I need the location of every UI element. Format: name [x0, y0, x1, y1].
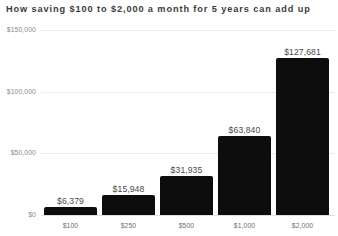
- bar-group-100[interactable]: $6,379: [44, 207, 97, 215]
- bar-value-1000: $63,840: [229, 125, 261, 135]
- axis-baseline: [41, 215, 335, 216]
- bar-group-250[interactable]: $15,948: [102, 195, 155, 215]
- gridline-150000: [41, 30, 335, 31]
- ytick-label-150000: $150,000: [0, 26, 36, 34]
- bar-250[interactable]: [102, 195, 155, 215]
- bar-group-2000[interactable]: $127,681: [276, 58, 329, 215]
- bar-500[interactable]: [160, 176, 213, 215]
- bar-group-500[interactable]: $31,935: [160, 176, 213, 215]
- bar-value-100: $6,379: [57, 196, 84, 206]
- bar-100[interactable]: [44, 207, 97, 215]
- bar-group-1000[interactable]: $63,840: [218, 136, 271, 215]
- xtick-label-250: $250: [102, 222, 155, 230]
- xtick-label-1000: $1,000: [218, 222, 271, 230]
- xtick-label-2000: $2,000: [276, 222, 329, 230]
- bar-chart: How saving $100 to $2,000 a month for 5 …: [0, 0, 338, 236]
- ytick-label-50000: $50,000: [0, 149, 36, 157]
- bar-1000[interactable]: [218, 136, 271, 215]
- xtick-label-500: $500: [160, 222, 213, 230]
- bar-value-250: $15,948: [113, 184, 145, 194]
- bar-value-2000: $127,681: [284, 47, 321, 57]
- bar-value-500: $31,935: [171, 165, 203, 175]
- bar-2000[interactable]: [276, 58, 329, 215]
- ytick-label-0: $0: [0, 211, 36, 219]
- xtick-label-100: $100: [44, 222, 97, 230]
- plot-area: $150,000 $100,000 $50,000 $0 $6,379 $15,…: [0, 0, 338, 236]
- ytick-label-100000: $100,000: [0, 88, 36, 96]
